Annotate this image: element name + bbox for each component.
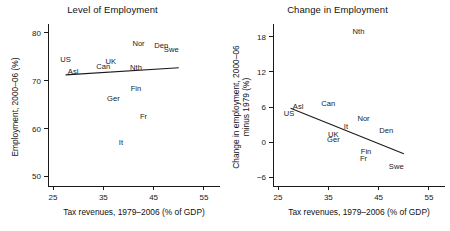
data-point-label: Nor — [132, 39, 145, 48]
data-point-label: It — [344, 122, 349, 131]
y-tick-label: 12 — [257, 68, 266, 77]
x-tick-label: 45 — [149, 193, 158, 202]
data-point-label: Can — [321, 99, 335, 108]
y-tick-label: 80 — [32, 29, 41, 38]
data-point-label: Swe — [164, 45, 179, 54]
data-point-label: Nth — [353, 27, 365, 36]
data-point-label: It — [119, 138, 124, 147]
data-point-label: Fin — [131, 84, 142, 93]
y-axis-title: Employment, 2000–06 (%) — [10, 57, 20, 156]
data-point-label: US — [284, 109, 295, 118]
x-tick-label: 25 — [49, 193, 58, 202]
x-axis-title: Tax revenues, 1979–2006 (% of GDP) — [288, 207, 430, 217]
y-axis-title-line2: minus 1979 (%) — [241, 77, 251, 136]
x-tick-label: 35 — [99, 193, 108, 202]
y-tick-label: 50 — [32, 172, 41, 181]
x-tick-label: 45 — [374, 193, 383, 202]
data-point-label: Nth — [130, 63, 142, 72]
trend-line — [66, 68, 179, 75]
data-point-label: Asl — [293, 102, 304, 111]
y-tick-label: 18 — [257, 33, 266, 42]
data-point-label: Fr — [140, 112, 148, 121]
y-tick-label: 6 — [262, 103, 267, 112]
data-point-label: US — [60, 55, 71, 64]
data-point-label: Nor — [357, 114, 370, 123]
x-axis-title: Tax revenues, 1979–2006 (% of GDP) — [63, 207, 205, 217]
data-point-label: Swe — [389, 162, 404, 171]
y-tick-label: 70 — [32, 77, 41, 86]
data-point-label: Fr — [360, 154, 368, 163]
data-point-label: Asl — [68, 67, 79, 76]
scatter-plot-change: −606121825354555NthAslCanUSNorItDenUKGer… — [225, 0, 450, 231]
figure-root: Level of Employment 5060708025354555USAs… — [0, 0, 450, 231]
x-tick-label: 35 — [324, 193, 333, 202]
y-tick-label: 60 — [32, 125, 41, 134]
data-point-label: Ger — [107, 94, 120, 103]
x-tick-label: 55 — [424, 193, 433, 202]
scatter-plot-level: 5060708025354555USAslCanUKNthNorDenSweGe… — [0, 0, 225, 231]
y-tick-label: 0 — [262, 138, 267, 147]
x-tick-label: 55 — [199, 193, 208, 202]
x-tick-label: 25 — [274, 193, 283, 202]
data-point-label: Den — [379, 126, 393, 135]
panel-level-of-employment: Level of Employment 5060708025354555USAs… — [0, 0, 225, 231]
y-axis-title-line1: Change in employment, 2000–06 — [231, 45, 241, 169]
y-tick-label: −6 — [257, 173, 267, 182]
data-point-label: UK — [106, 57, 117, 66]
data-point-label: Ger — [327, 135, 340, 144]
panel-change-in-employment: Change in Employment −606121825354555Nth… — [225, 0, 450, 231]
